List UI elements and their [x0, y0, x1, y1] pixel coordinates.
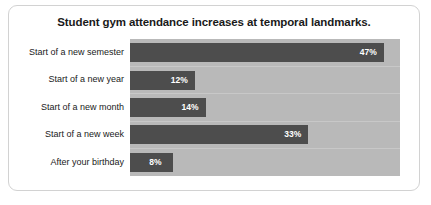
- bar-row: Start of a new week33%: [130, 121, 400, 148]
- chart-title: Student gym attendance increases at temp…: [8, 16, 420, 28]
- bar-row: Start of a new year12%: [130, 66, 400, 93]
- bar-value-label: 8%: [149, 153, 161, 172]
- bar-category-label: After your birthday: [0, 149, 124, 176]
- chart-figure: Student gym attendance increases at temp…: [0, 0, 431, 205]
- bar-value-label: 33%: [284, 125, 301, 144]
- bar-category-label: Start of a new year: [0, 66, 124, 93]
- bar-category-label: Start of a new week: [0, 121, 124, 148]
- bar-value-label: 47%: [360, 43, 377, 62]
- plot-area: Start of a new semester47%Start of a new…: [130, 39, 400, 176]
- bar: [130, 125, 308, 144]
- bar-category-label: Start of a new semester: [0, 39, 124, 66]
- bar-row: Start of a new month14%: [130, 94, 400, 121]
- bar-value-label: 14%: [182, 98, 199, 117]
- bar: [130, 43, 384, 62]
- bar-row: After your birthday8%: [130, 149, 400, 176]
- bar-row: Start of a new semester47%: [130, 39, 400, 66]
- bar-category-label: Start of a new month: [0, 94, 124, 121]
- bar-value-label: 12%: [171, 71, 188, 90]
